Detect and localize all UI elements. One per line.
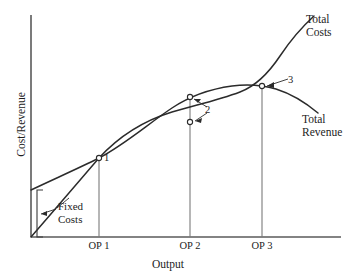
x-tick-label-op3: OP 3 <box>240 240 284 252</box>
point-marker-2-revenue <box>187 94 192 99</box>
chart-canvas <box>0 0 356 280</box>
y-axis-title: Cost/Revenue <box>15 76 28 172</box>
cost-revenue-chart-figure: Cost/Revenue Output OP 1 OP 2 OP 3 Total… <box>0 0 356 280</box>
total-revenue-label: Total Revenue <box>302 113 356 139</box>
fixed-costs-label: Fixed Costs <box>58 200 104 225</box>
x-tick-label-op2: OP 2 <box>168 240 212 252</box>
point-marker-1 <box>96 155 101 160</box>
point-label-2: 2 <box>205 104 210 116</box>
x-tick-label-op1: OP 1 <box>77 240 121 252</box>
point-label-3: 3 <box>288 74 293 86</box>
point-label-1: 1 <box>104 152 109 164</box>
point-marker-2-cost <box>187 119 192 124</box>
total-revenue-curve <box>31 85 318 190</box>
point-marker-3 <box>259 83 264 88</box>
total-costs-label: Total Costs <box>306 13 354 39</box>
x-axis-title: Output <box>128 258 208 271</box>
